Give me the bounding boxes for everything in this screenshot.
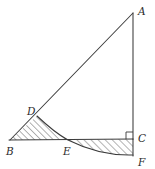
vertex-label-D: D bbox=[26, 105, 36, 117]
hatched-region-BDE bbox=[10, 116, 68, 140]
vertex-label-B: B bbox=[5, 145, 14, 157]
vertex-label-C: C bbox=[138, 132, 146, 144]
geometry-figure-svg: A B C D E F bbox=[0, 0, 155, 169]
right-angle-marker-at-C bbox=[126, 132, 133, 139]
segment-BA bbox=[10, 13, 133, 140]
vertex-label-F: F bbox=[137, 156, 146, 168]
hatched-region-ECF bbox=[68, 139, 133, 155]
vertex-label-A: A bbox=[137, 5, 146, 17]
geometry-figure-container: A B C D E F bbox=[0, 0, 155, 169]
vertex-label-E: E bbox=[62, 145, 71, 157]
